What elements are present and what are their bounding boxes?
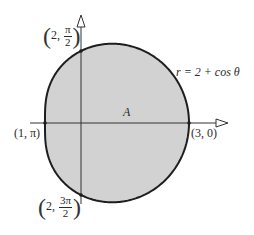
label-point-right: (3, 0)	[191, 127, 217, 139]
coord-r: 2	[51, 28, 57, 42]
point-left	[43, 121, 47, 125]
fraction: π2	[64, 24, 72, 48]
fraction: 3π2	[59, 195, 72, 219]
fraction-num: π	[64, 24, 72, 37]
fraction-num: 3π	[59, 195, 72, 208]
label-point-bottom: (2, 3π2)	[38, 195, 81, 219]
label-point-left: (1, π)	[14, 127, 40, 139]
fraction-den: 2	[63, 208, 69, 220]
fraction-den: 2	[65, 37, 71, 49]
polar-diagram: (2, π2) r = 2 + cos θ A (1, π) (3, 0) (2…	[0, 0, 254, 235]
curve-equation-label: r = 2 + cos θ	[176, 66, 240, 78]
point-top	[79, 49, 83, 53]
point-right	[187, 121, 191, 125]
region-label: A	[123, 106, 130, 118]
polar-axis-arrow-icon	[216, 119, 228, 127]
label-point-top: (2, π2)	[43, 24, 81, 48]
coord-r: 2	[46, 199, 52, 213]
